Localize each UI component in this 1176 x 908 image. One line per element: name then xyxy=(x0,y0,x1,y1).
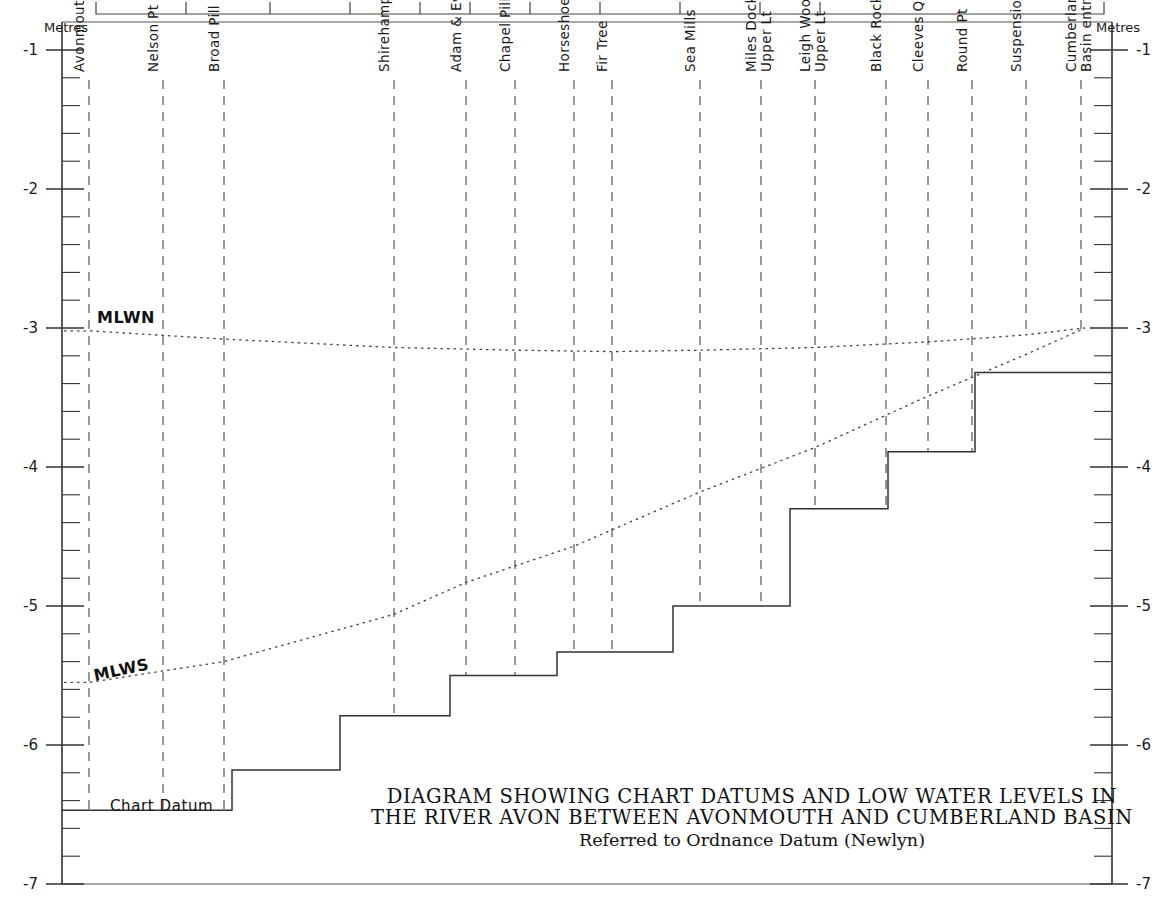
station-label-suspension-bridge: Suspension Bridge xyxy=(1008,0,1024,72)
right-tick-label-1: -1 xyxy=(1136,41,1151,59)
left-tick-label-4: -4 xyxy=(23,458,38,476)
right-axis-title: Metres xyxy=(1096,20,1140,35)
title-line-2: THE RIVER AVON BETWEEN AVONMOUTH AND CUM… xyxy=(371,806,1133,829)
right-tick-label-6: -6 xyxy=(1136,736,1151,754)
station-label-leigh-woods-upper-lt-1: Leigh Woods xyxy=(797,0,813,72)
right-tick-label-2: -2 xyxy=(1136,180,1151,198)
station-label-shirehampton: Shirehampton xyxy=(376,0,392,72)
station-label-nelson-pt: Nelson Pt xyxy=(145,5,161,72)
left-tick-label-3: -3 xyxy=(23,319,38,337)
right-tick-label-7: -7 xyxy=(1136,875,1151,893)
left-tick-label-7: -7 xyxy=(23,875,38,893)
station-label-leigh-woods-upper-lt-2: Upper Lt xyxy=(812,11,828,72)
station-label-black-rock: Black Rock xyxy=(868,0,884,72)
diagram-canvas: MetresMetres-1-1-2-2-3-3-4-4-5-5-6-6-7-7… xyxy=(0,0,1176,908)
chart-datum-step-line xyxy=(62,373,1112,811)
tide-level-diagram: MetresMetres-1-1-2-2-3-3-4-4-5-5-6-6-7-7… xyxy=(0,0,1176,908)
left-tick-label-6: -6 xyxy=(23,736,38,754)
station-label-round-pt: Round Pt xyxy=(954,8,970,72)
left-tick-label-2: -2 xyxy=(23,180,38,198)
mlws-label: MLWS xyxy=(92,655,151,685)
station-label-sea-mills: Sea Mills xyxy=(682,9,698,72)
station-label-cumberland-basin-entrance-1: Cumberland xyxy=(1063,0,1079,72)
station-label-cleeves-quarry: Cleeves Quarry xyxy=(910,0,926,72)
station-label-miles-dock-upper-lt-2: Upper Lt xyxy=(758,11,774,72)
station-label-broad-pill: Broad Pill xyxy=(206,5,222,72)
station-label-cumberland-basin-entrance-2: Basin entrance xyxy=(1078,0,1094,72)
mlwn-label: MLWN xyxy=(97,308,155,327)
chart-datum-label: Chart Datum xyxy=(110,797,213,815)
right-tick-label-5: -5 xyxy=(1136,597,1151,615)
station-label-fir-tree: Fir Tree xyxy=(594,20,610,72)
left-tick-label-1: -1 xyxy=(23,41,38,59)
title-line-3: Referred to Ordnance Datum (Newlyn) xyxy=(579,830,925,850)
right-tick-label-4: -4 xyxy=(1136,458,1151,476)
right-tick-label-3: -3 xyxy=(1136,319,1151,337)
station-label-adam-eve: Adam & Eve xyxy=(448,0,464,72)
title-line-1: DIAGRAM SHOWING CHART DATUMS AND LOW WAT… xyxy=(387,785,1117,808)
left-tick-label-5: -5 xyxy=(23,597,38,615)
station-label-avonmouth: Avonmouth xyxy=(71,0,87,72)
station-label-miles-dock-upper-lt-1: Miles Dock xyxy=(743,0,759,72)
station-label-horseshoe-lower-lt: Horseshoe Lower Lt xyxy=(556,0,572,72)
station-label-chapel-pill: Chapel Pill xyxy=(497,0,513,72)
